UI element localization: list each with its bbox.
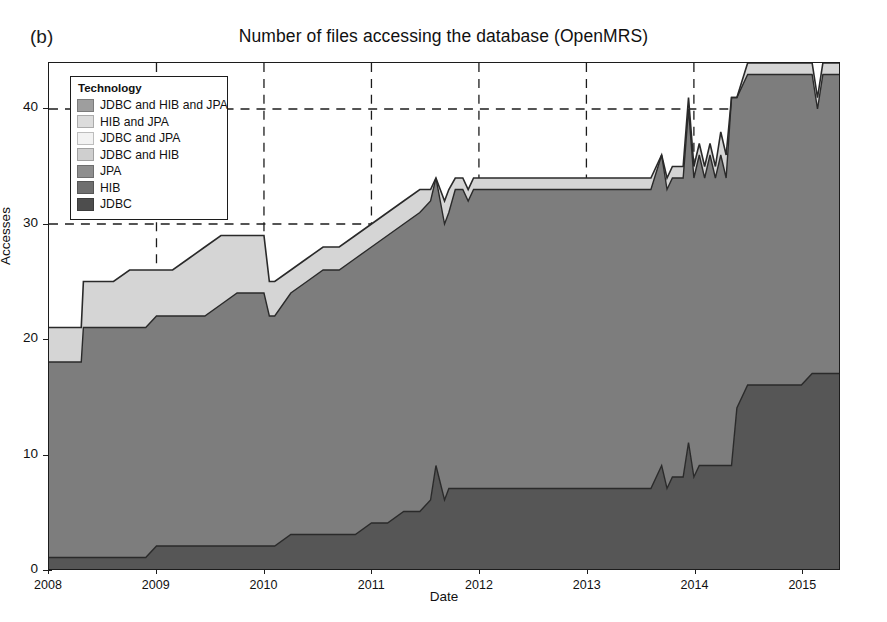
legend-swatch-icon (77, 181, 94, 194)
legend-item[interactable]: JPA (77, 163, 221, 180)
legend-title: Technology (78, 82, 221, 94)
chart-root: (b) Number of files accessing the databa… (0, 0, 887, 622)
x-tick-label: 2009 (142, 578, 170, 592)
y-tick-label: 30 (2, 215, 38, 230)
x-tick-label: 2015 (788, 578, 816, 592)
x-tick-label: 2008 (34, 578, 62, 592)
legend-swatch-icon (77, 99, 94, 112)
legend-item-label: HIB (100, 182, 120, 194)
legend-swatch-icon (77, 115, 94, 128)
legend-swatch-icon (77, 148, 94, 161)
legend-item-label: JDBC and HIB and JPA (100, 99, 228, 111)
y-tick-label: 0 (2, 561, 38, 576)
legend-rows: JDBC and HIB and JPAHIB and JPAJDBC and … (77, 97, 221, 213)
x-tick-label: 2014 (681, 578, 709, 592)
y-tick-label: 10 (2, 446, 38, 461)
x-tick-label: 2011 (358, 578, 385, 592)
y-tick-label: 40 (2, 99, 38, 114)
legend-item[interactable]: HIB and JPA (77, 114, 221, 131)
legend-item[interactable]: JDBC (77, 196, 221, 213)
legend: Technology JDBC and HIB and JPAHIB and J… (70, 76, 228, 220)
legend-item-label: JDBC (100, 198, 132, 210)
legend-item-label: HIB and JPA (100, 116, 169, 128)
chart-title: Number of files accessing the database (… (0, 26, 887, 47)
x-tick-label: 2013 (573, 578, 601, 592)
legend-swatch-icon (77, 198, 94, 211)
x-tick-label: 2012 (465, 578, 493, 592)
x-tick-label: 2010 (250, 578, 278, 592)
legend-swatch-icon (77, 165, 94, 178)
legend-swatch-icon (77, 132, 94, 145)
legend-item-label: JDBC and HIB (100, 149, 179, 161)
legend-item-label: JDBC and JPA (100, 132, 180, 144)
legend-item[interactable]: JDBC and HIB (77, 147, 221, 164)
legend-item[interactable]: JDBC and HIB and JPA (77, 97, 221, 114)
legend-item[interactable]: HIB (77, 180, 221, 197)
y-axis-label: Accesses (0, 176, 13, 296)
legend-item[interactable]: JDBC and JPA (77, 130, 221, 147)
legend-item-label: JPA (100, 165, 121, 177)
y-tick-label: 20 (2, 330, 38, 345)
